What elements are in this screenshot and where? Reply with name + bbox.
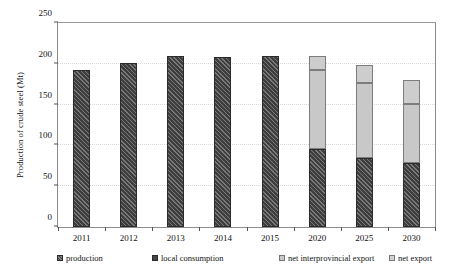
y-axis-tick-mark bbox=[54, 62, 58, 63]
bar-segment[interactable] bbox=[167, 56, 184, 227]
x-axis-tick-label: 2013 bbox=[167, 233, 185, 243]
x-axis-tick-mark bbox=[341, 227, 342, 231]
x-axis-tick-label: 2030 bbox=[402, 233, 420, 243]
x-axis-tick-label: 2015 bbox=[261, 233, 279, 243]
bar-group bbox=[294, 23, 341, 227]
y-axis-tick-mark bbox=[54, 22, 58, 23]
legend-item[interactable]: net interprovincial export bbox=[279, 253, 374, 263]
y-axis-tick-mark bbox=[54, 185, 58, 186]
chart-figure: Production of crude steel (Mt) 050100150… bbox=[0, 0, 450, 277]
bar-segment[interactable] bbox=[120, 63, 137, 227]
y-axis-tick-mark bbox=[54, 103, 58, 104]
bar-segment[interactable] bbox=[356, 83, 373, 158]
legend-swatch-icon bbox=[389, 255, 395, 261]
x-axis-tick-mark bbox=[58, 227, 59, 231]
bar-group bbox=[152, 23, 199, 227]
bar-segment[interactable] bbox=[309, 149, 326, 227]
x-axis-tick-label: 2020 bbox=[308, 233, 326, 243]
plot-area: 0501001502002502011201220132014201520202… bbox=[57, 22, 436, 228]
bar-group bbox=[58, 23, 105, 227]
y-axis-tick-label: 50 bbox=[43, 171, 58, 181]
bar-group bbox=[105, 23, 152, 227]
bar-group bbox=[388, 23, 435, 227]
y-axis-tick-label: 200 bbox=[39, 49, 59, 59]
y-axis-tick-label: 100 bbox=[39, 130, 59, 140]
bar-segment[interactable] bbox=[214, 57, 231, 227]
legend-swatch-icon bbox=[57, 255, 63, 261]
bar-group bbox=[341, 23, 388, 227]
bar-segment[interactable] bbox=[73, 70, 90, 227]
x-axis-tick-mark bbox=[247, 227, 248, 231]
bar-segment[interactable] bbox=[403, 163, 420, 227]
x-axis-tick-mark bbox=[388, 227, 389, 231]
legend-swatch-icon bbox=[279, 255, 285, 261]
x-axis-tick-mark bbox=[152, 227, 153, 231]
bar-series-layer bbox=[58, 23, 435, 227]
bar-group bbox=[199, 23, 246, 227]
x-axis-tick-label: 2025 bbox=[355, 233, 373, 243]
x-axis-tick-mark bbox=[294, 227, 295, 231]
legend-label: local consumption bbox=[161, 253, 224, 263]
y-axis-tick-label: 250 bbox=[39, 8, 59, 18]
y-axis-tick-mark bbox=[54, 144, 58, 145]
bar-segment[interactable] bbox=[309, 56, 326, 69]
x-axis-tick-label: 2011 bbox=[73, 233, 91, 243]
legend-label: net interprovincial export bbox=[288, 253, 374, 263]
legend-label: production bbox=[66, 253, 103, 263]
bar-segment[interactable] bbox=[403, 80, 420, 104]
bar-group bbox=[247, 23, 294, 227]
bar-segment[interactable] bbox=[309, 70, 326, 150]
legend-swatch-icon bbox=[152, 255, 158, 261]
y-axis-tick-label: 0 bbox=[48, 212, 59, 222]
bar-segment[interactable] bbox=[356, 65, 373, 83]
legend-item[interactable]: net export bbox=[389, 253, 432, 263]
legend-item[interactable]: production bbox=[57, 253, 103, 263]
legend-label: net export bbox=[398, 253, 432, 263]
x-axis-tick-mark bbox=[199, 227, 200, 231]
x-axis-tick-mark bbox=[435, 227, 436, 231]
y-axis-title: Production of crude steel (Mt) bbox=[15, 25, 25, 225]
x-axis-tick-mark bbox=[105, 227, 106, 231]
legend-item[interactable]: local consumption bbox=[152, 253, 224, 263]
y-axis-tick-label: 150 bbox=[39, 90, 59, 100]
bar-segment[interactable] bbox=[356, 158, 373, 227]
bar-segment[interactable] bbox=[403, 104, 420, 164]
x-axis-tick-label: 2012 bbox=[120, 233, 138, 243]
bar-segment[interactable] bbox=[262, 56, 279, 227]
x-axis-tick-label: 2014 bbox=[214, 233, 232, 243]
chart-legend: productionlocal consumptionnet interprov… bbox=[57, 252, 439, 264]
